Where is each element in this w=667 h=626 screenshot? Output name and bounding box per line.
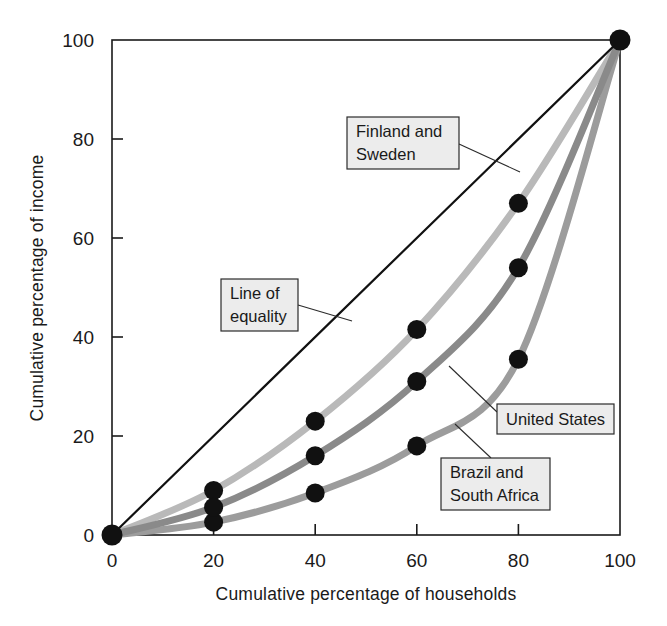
y-tick-label-20: 20	[73, 426, 94, 447]
callout-brazil-south-africa: Brazil andSouth Africa	[441, 458, 550, 510]
callout-label-united-states-line-1: United States	[506, 410, 605, 428]
leader-line-united-states	[449, 366, 497, 412]
x-tick-label-100: 100	[604, 550, 636, 571]
marker-brazil-and-south-africa-60	[407, 436, 426, 455]
x-tick-label-40: 40	[305, 550, 326, 571]
leader-line-line-of-equality	[298, 305, 352, 321]
marker-united-states-20	[204, 498, 223, 517]
marker-united-states-80	[509, 258, 528, 277]
y-tick-label-0: 0	[83, 525, 94, 546]
x-tick-label-80: 80	[508, 550, 529, 571]
y-axis-title: Cumulative percentage of income	[27, 155, 47, 422]
marker-brazil-and-south-africa-80	[509, 350, 528, 369]
marker-united-states-60	[407, 372, 426, 391]
callout-line-of-equality: Line ofequality	[221, 279, 298, 331]
marker-endpoint	[610, 30, 631, 51]
callout-label-line-of-equality-line-2: equality	[230, 307, 288, 325]
y-tick-label-40: 40	[73, 327, 94, 348]
callout-label-brazil-south-africa-line-2: South Africa	[450, 486, 540, 504]
chart-canvas: 020406080100020406080100 Finland andSwed…	[0, 0, 667, 626]
callout-label-finland-sweden-line-2: Sweden	[356, 145, 416, 163]
callout-label-brazil-south-africa-line-1: Brazil and	[450, 463, 523, 481]
marker-finland-and-sweden-20	[204, 481, 223, 500]
y-tick-label-80: 80	[73, 129, 94, 150]
leader-line-brazil-south-africa	[455, 424, 491, 458]
callout-label-line-of-equality-line-1: Line of	[230, 284, 280, 302]
marker-united-states-40	[306, 446, 325, 465]
marker-origin	[102, 525, 123, 546]
x-tick-label-60: 60	[406, 550, 427, 571]
callout-finland-sweden: Finland andSweden	[347, 117, 459, 169]
marker-finland-and-sweden-60	[407, 320, 426, 339]
x-tick-label-0: 0	[107, 550, 118, 571]
x-tick-label-20: 20	[203, 550, 224, 571]
callout-label-finland-sweden-line-1: Finland and	[356, 122, 442, 140]
y-tick-label-60: 60	[73, 228, 94, 249]
callout-united-states: United States	[497, 404, 614, 434]
x-axis-title: Cumulative percentage of households	[216, 584, 517, 604]
marker-brazil-and-south-africa-40	[306, 483, 325, 502]
marker-finland-and-sweden-80	[509, 194, 528, 213]
y-tick-label-100: 100	[62, 30, 94, 51]
marker-finland-and-sweden-40	[306, 412, 325, 431]
lorenz-curve-chart: 020406080100020406080100 Finland andSwed…	[0, 0, 667, 626]
